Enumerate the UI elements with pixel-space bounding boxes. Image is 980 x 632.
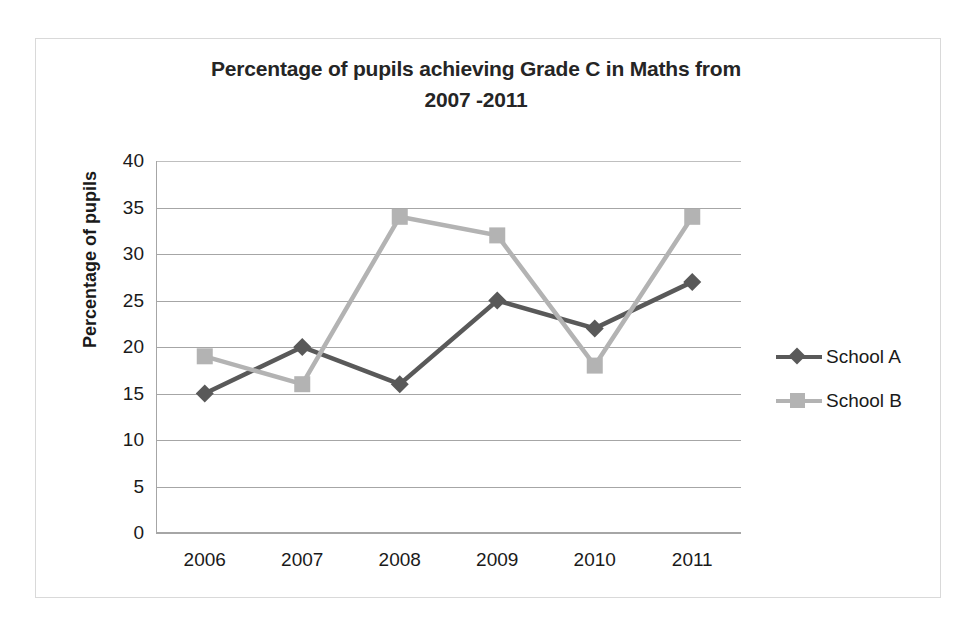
y-axis-tick-label: 30 <box>123 243 144 265</box>
data-point-marker <box>684 209 700 225</box>
x-axis-tick-label: 2009 <box>476 549 518 571</box>
plot-area: 0510152025303540 20062007200820092010201… <box>156 161 741 533</box>
y-axis-tick-label: 15 <box>123 383 144 405</box>
legend-label: School B <box>826 390 902 412</box>
diamond-marker-icon <box>789 348 806 365</box>
square-marker-icon <box>790 393 805 408</box>
legend-label: School A <box>826 346 901 368</box>
y-axis-tick-label: 0 <box>133 522 144 544</box>
legend-item-school-a[interactable]: School A <box>776 335 936 379</box>
chart-title: Percentage of pupils achieving Grade C i… <box>126 53 826 115</box>
gridline <box>156 533 741 534</box>
data-point-marker <box>586 319 604 337</box>
y-axis-tick-label: 10 <box>123 429 144 451</box>
data-point-marker <box>392 209 408 225</box>
chart-title-line-2: 2007 -2011 <box>126 84 826 115</box>
x-axis-tick-label: 2008 <box>379 549 421 571</box>
data-point-marker <box>294 376 310 392</box>
x-axis-tick-label: 2006 <box>184 549 226 571</box>
data-point-marker <box>587 358 603 374</box>
data-point-marker <box>293 338 311 356</box>
y-axis-title: Percentage of pupils <box>80 160 101 360</box>
legend: School ASchool B <box>776 335 936 423</box>
chart-frame: Percentage of pupils achieving Grade C i… <box>35 38 941 598</box>
chart-title-line-1: Percentage of pupils achieving Grade C i… <box>126 53 826 84</box>
x-axis-tick-label: 2010 <box>574 549 616 571</box>
data-point-marker <box>683 273 701 291</box>
data-point-marker <box>196 385 214 403</box>
legend-key-icon <box>776 390 822 412</box>
y-axis-tick-label: 5 <box>133 476 144 498</box>
legend-key-icon <box>776 346 822 368</box>
data-point-marker <box>489 227 505 243</box>
x-axis-tick-label: 2011 <box>672 549 713 571</box>
x-axis-tick-label: 2007 <box>281 549 323 571</box>
series-layer <box>156 161 741 533</box>
y-axis-tick-label: 20 <box>123 336 144 358</box>
data-point-marker <box>197 348 213 364</box>
legend-item-school-b[interactable]: School B <box>776 379 936 423</box>
y-axis-tick-label: 25 <box>123 290 144 312</box>
y-axis-tick-label: 35 <box>123 197 144 219</box>
y-axis-tick-label: 40 <box>123 150 144 172</box>
